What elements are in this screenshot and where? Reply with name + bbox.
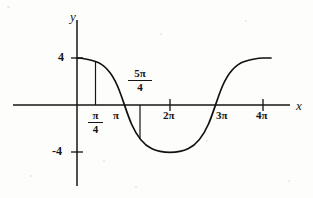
scan-speckle [160, 33, 162, 35]
x-tick-label-pi: π [113, 110, 119, 121]
scan-speckle [30, 175, 32, 177]
x-tick-label-4pi: 4π [256, 110, 268, 121]
annotation-five-pi-over-4: 5π 4 [128, 68, 152, 93]
graph-svg [0, 0, 313, 198]
x-tick-label-2pi: 2π [163, 110, 175, 121]
y-axis-label: y [70, 10, 76, 23]
scan-speckle [135, 186, 137, 188]
annotation-pi-over-4-denominator: 4 [88, 124, 103, 135]
scan-speckle [103, 160, 105, 162]
annotation-five-pi-over-4-numerator: 5π [128, 68, 152, 79]
annotation-five-pi-over-4-denominator: 4 [128, 82, 152, 93]
x-tick-label-3pi: 3π [216, 110, 228, 121]
annotation-pi-over-4-numerator: π [88, 110, 103, 121]
y-tick-label-4: 4 [58, 51, 64, 63]
scan-speckle [245, 20, 247, 22]
scan-speckle [288, 180, 290, 182]
scan-speckle [206, 140, 208, 142]
annotation-pi-over-4: π 4 [88, 110, 103, 135]
y-tick-label-minus-4: -4 [52, 145, 62, 157]
x-axis-label: x [296, 99, 302, 112]
scan-speckle [7, 6, 10, 8]
figure-canvas: y x 4 -4 π 2π 3π 4π π 4 5π 4 [0, 0, 313, 198]
